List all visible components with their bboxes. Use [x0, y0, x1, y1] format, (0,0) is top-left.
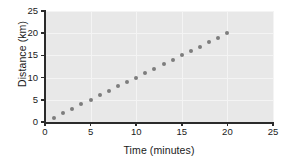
gridline-vertical	[91, 11, 92, 122]
gridline-vertical	[182, 11, 183, 122]
gridline-vertical	[273, 11, 274, 122]
y-tick-label: 15	[0, 50, 38, 60]
plot-area	[45, 11, 273, 122]
x-axis-spine	[44, 122, 274, 124]
data-point	[152, 67, 156, 71]
data-point	[79, 102, 83, 106]
y-tick-label: 10	[0, 73, 38, 83]
data-point	[180, 53, 184, 57]
data-point	[171, 58, 175, 62]
gridline-horizontal	[45, 55, 273, 56]
x-tick-label: 10	[116, 127, 156, 137]
gridline-vertical	[227, 11, 228, 122]
gridline-horizontal	[45, 100, 273, 101]
y-axis-spine	[44, 10, 46, 123]
data-point	[89, 98, 93, 102]
data-point	[125, 80, 129, 84]
x-tick-label: 15	[162, 127, 202, 137]
gridline-horizontal	[45, 78, 273, 79]
y-tick-label: 25	[0, 6, 38, 16]
x-tick-label: 0	[25, 127, 65, 137]
data-point	[225, 31, 229, 35]
data-point	[162, 62, 166, 66]
data-point	[189, 49, 193, 53]
data-point	[198, 45, 202, 49]
y-tick-label: 5	[0, 95, 38, 105]
x-axis-title: Time (minutes)	[45, 144, 273, 156]
data-point	[61, 111, 65, 115]
gridline-horizontal	[45, 11, 273, 12]
y-tick-mark	[41, 10, 44, 12]
x-tick-label: 5	[71, 127, 111, 137]
data-point	[207, 40, 211, 44]
data-point	[70, 107, 74, 111]
data-point	[116, 84, 120, 88]
gridline-horizontal	[45, 33, 273, 34]
data-point	[98, 93, 102, 97]
x-tick-label: 20	[207, 127, 247, 137]
y-tick-label: 20	[0, 28, 38, 38]
y-tick-mark	[41, 55, 44, 57]
data-point	[134, 76, 138, 80]
data-point	[216, 36, 220, 40]
y-tick-mark	[41, 99, 44, 101]
y-tick-mark	[41, 77, 44, 79]
y-tick-label: 0	[0, 117, 38, 127]
data-point	[52, 116, 56, 120]
y-tick-mark	[41, 32, 44, 34]
gridline-vertical	[136, 11, 137, 122]
scatter-chart-figure: Distance (km) 0510152025 0510152025 Time…	[0, 0, 283, 167]
data-point	[143, 71, 147, 75]
x-tick-label: 25	[253, 127, 283, 137]
data-point	[107, 89, 111, 93]
